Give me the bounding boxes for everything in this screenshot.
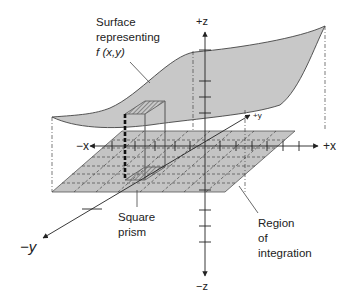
prism-label-2: prism	[118, 226, 146, 238]
label-neg-z: −z	[196, 280, 208, 291]
surface-label-1: Surface	[96, 16, 136, 28]
diagram-canvas: +z −z +x −x +y −y Surface representing f…	[0, 0, 353, 291]
surface-label-2: representing	[96, 31, 160, 43]
label-neg-y: −y	[20, 238, 38, 255]
label-pos-x: +x	[323, 139, 336, 153]
region-label-3: integration	[258, 247, 312, 259]
label-pos-y: +y	[253, 111, 262, 120]
label-pos-z: +z	[196, 15, 208, 27]
prism-label-1: Square	[118, 211, 155, 223]
surface-label-3: f (x,y)	[96, 46, 125, 58]
region-label-2: of	[258, 232, 268, 244]
surface-leader	[130, 62, 150, 83]
region-label-1: Region	[258, 217, 294, 229]
label-neg-x: −x	[76, 139, 89, 153]
region-leader	[239, 186, 258, 213]
